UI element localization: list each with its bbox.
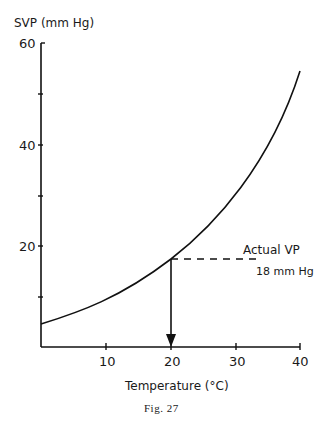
x-tick-label-10: 10 (99, 354, 116, 369)
chart-plot (0, 0, 326, 427)
x-tick-label-20: 20 (164, 354, 181, 369)
actual-vp-value: 18 mm Hg (256, 265, 314, 278)
y-axis-label: SVP (mm Hg) (14, 16, 94, 30)
figure-caption: Fig. 27 (144, 402, 179, 414)
x-axis-label: Temperature (°C) (125, 379, 229, 393)
y-tick-label-60: 60 (19, 36, 36, 51)
actual-vp-label: Actual VP (243, 243, 300, 257)
x-tick-label-40: 40 (292, 354, 309, 369)
x-tick-label-30: 30 (229, 354, 246, 369)
y-tick-label-20: 20 (19, 239, 36, 254)
arrow-head-icon (166, 334, 176, 347)
y-tick-label-40: 40 (19, 138, 36, 153)
